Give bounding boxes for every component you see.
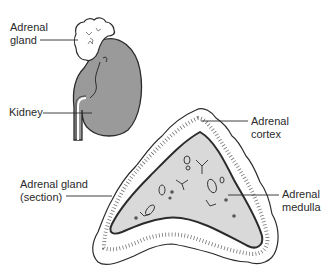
label-kidney: Kidney [9, 106, 43, 119]
label-adrenal-cortex-line2: cortex [251, 128, 289, 141]
label-adrenal-gland-section: Adrenal gland (section) [20, 178, 88, 204]
label-adrenal-cortex: Adrenal cortex [251, 115, 289, 141]
label-adrenal-gland-line2: gland [10, 34, 48, 47]
label-adrenal-gland: Adrenal gland [10, 21, 48, 47]
label-adrenal-medulla: Adrenal medulla [282, 188, 321, 214]
label-adrenal-gland-section-line2: (section) [20, 191, 88, 204]
label-adrenal-medulla-line1: Adrenal [282, 188, 321, 201]
label-adrenal-medulla-line2: medulla [282, 201, 321, 214]
label-kidney-line1: Kidney [9, 106, 43, 119]
label-adrenal-cortex-line1: Adrenal [251, 115, 289, 128]
label-adrenal-gland-section-line1: Adrenal gland [20, 178, 88, 191]
label-adrenal-gland-line1: Adrenal [10, 21, 48, 34]
